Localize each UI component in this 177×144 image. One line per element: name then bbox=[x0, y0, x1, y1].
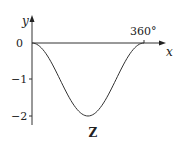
chart-caption: Z bbox=[89, 126, 98, 140]
x-axis-label: x bbox=[166, 45, 173, 59]
y-tick-label-0: 0 bbox=[16, 37, 23, 50]
y-axis-arrow-icon bbox=[30, 15, 35, 22]
chart: y x 360° 0 −1 −2 Z bbox=[0, 0, 177, 144]
curve-line bbox=[32, 43, 144, 116]
y-tick-label-m1: −1 bbox=[11, 73, 27, 86]
x-tick-label-360: 360° bbox=[130, 25, 157, 38]
x-axis-arrow-icon bbox=[159, 41, 166, 46]
y-tick-label-m2: −2 bbox=[11, 110, 27, 123]
y-axis-label: y bbox=[21, 14, 29, 28]
